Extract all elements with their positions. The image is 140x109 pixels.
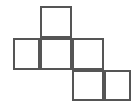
net-cell-group: [14, 7, 130, 100]
bottom-right-square: [105, 71, 130, 100]
net-diagram-svg: [0, 0, 140, 109]
middle-right-square: [73, 39, 103, 69]
middle-center-square: [41, 39, 71, 69]
top-square: [41, 7, 71, 37]
bottom-left-square: [73, 71, 103, 100]
hexomino-net-figure: [0, 0, 140, 109]
middle-left-square: [14, 39, 39, 69]
